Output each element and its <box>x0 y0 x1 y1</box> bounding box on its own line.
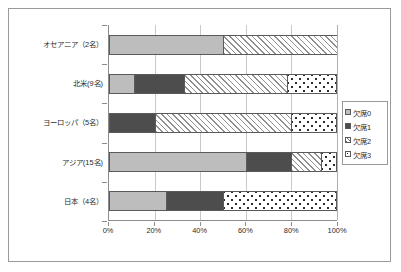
stacked-bar <box>109 191 337 211</box>
bar-row-japan <box>109 182 337 221</box>
category-label-asia: アジア(15名) <box>62 143 108 182</box>
bar-segment-kesseki1[interactable] <box>134 74 184 94</box>
bar-segment-kesseki3[interactable] <box>291 113 337 133</box>
stacked-bar <box>109 35 337 55</box>
x-axis-label-40: 40% <box>192 226 207 235</box>
bar-segment-kesseki3[interactable] <box>223 191 337 211</box>
y-axis-tick <box>102 221 107 222</box>
bar-segment-kesseki1[interactable] <box>109 113 155 133</box>
bar-row-oceania <box>109 25 337 64</box>
bar-row-north-america <box>109 64 337 103</box>
x-axis-label-100: 100% <box>328 226 347 235</box>
stacked-bar <box>109 74 337 94</box>
bar-segment-kesseki2[interactable] <box>223 35 337 55</box>
legend-label: 欠席1 <box>353 121 371 132</box>
legend-swatch-icon <box>345 109 351 115</box>
chart-frame: オセアニア（2名） 北米(9名) ヨーロッパ（5名） アジア(15名) 日本（4… <box>8 8 391 262</box>
bar-row-asia <box>109 143 337 182</box>
x-axis-label-80: 80% <box>284 226 299 235</box>
legend: 欠席0 欠席1 欠席2 欠席3 <box>342 101 388 165</box>
legend-item-kesseki2[interactable]: 欠席2 <box>345 133 385 147</box>
legend-swatch-icon <box>345 137 351 143</box>
x-axis-label-20: 20% <box>146 226 161 235</box>
legend-item-kesseki1[interactable]: 欠席1 <box>345 119 385 133</box>
category-label-north-america: 北米(9名) <box>73 64 108 103</box>
bar-segment-kesseki1[interactable] <box>246 152 292 172</box>
bar-row-europe <box>109 103 337 142</box>
bar-segment-kesseki2[interactable] <box>291 152 321 172</box>
y-axis-category-labels: オセアニア（2名） 北米(9名) ヨーロッパ（5名） アジア(15名) 日本（4… <box>9 25 108 221</box>
legend-label: 欠席0 <box>353 107 371 118</box>
x-axis: 0% 20% 40% 60% 80% 100% <box>108 222 337 238</box>
x-axis-label-60: 60% <box>238 226 253 235</box>
category-label-japan: 日本（4名） <box>64 182 108 221</box>
bar-segment-kesseki2[interactable] <box>155 113 292 133</box>
bar-segment-kesseki2[interactable] <box>184 74 287 94</box>
legend-item-kesseki3[interactable]: 欠席3 <box>345 147 385 161</box>
bar-segment-kesseki3[interactable] <box>287 74 337 94</box>
category-label-oceania: オセアニア（2名） <box>43 25 108 64</box>
bar-segment-kesseki0[interactable] <box>109 74 134 94</box>
stacked-bar <box>109 152 337 172</box>
legend-label: 欠席2 <box>353 135 371 146</box>
legend-swatch-icon <box>345 151 351 157</box>
legend-swatch-icon <box>345 123 351 129</box>
stacked-bar <box>109 113 337 133</box>
category-label-europe: ヨーロッパ（5名） <box>43 103 108 142</box>
bar-segment-kesseki0[interactable] <box>109 191 166 211</box>
x-axis-label-0: 0% <box>103 226 114 235</box>
legend-label: 欠席3 <box>353 149 371 160</box>
bar-segment-kesseki3[interactable] <box>321 152 337 172</box>
plot-area <box>108 25 337 221</box>
bar-segment-kesseki0[interactable] <box>109 152 246 172</box>
legend-item-kesseki0[interactable]: 欠席0 <box>345 105 385 119</box>
bar-segment-kesseki0[interactable] <box>109 35 223 55</box>
gridline-100 <box>337 25 338 220</box>
bar-segment-kesseki1[interactable] <box>166 191 223 211</box>
